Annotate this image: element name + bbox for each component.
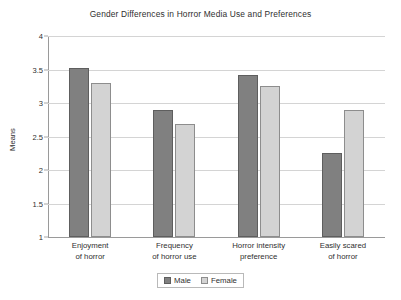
bar-group (301, 36, 385, 237)
legend-swatch-male (164, 277, 171, 284)
category-label-line: of horror use (132, 251, 216, 262)
legend-swatch-female (201, 277, 208, 284)
bar-male[interactable] (238, 75, 258, 237)
x-axis-category-label: Easily scaredof horror (301, 240, 385, 262)
legend-box: MaleFemale (157, 273, 244, 288)
bar-pair (48, 36, 132, 237)
bar-male[interactable] (322, 153, 342, 237)
bar-group (132, 36, 216, 237)
y-tick-label: 3.5 (32, 65, 43, 74)
bar-groups (48, 36, 385, 237)
legend: MaleFemale (0, 273, 401, 288)
category-label-line: Easily scared (301, 240, 385, 251)
category-label-line: Enjoyment (48, 240, 132, 251)
plot-area: 11.522.533.54 (48, 36, 385, 237)
y-tick-label: 1.5 (32, 199, 43, 208)
x-axis-category-labels: Enjoymentof horrorFrequencyof horror use… (48, 240, 385, 262)
bar-chart: Gender Differences in Horror Media Use a… (0, 0, 401, 300)
bar-female[interactable] (344, 110, 364, 237)
category-label-line: preference (217, 251, 301, 262)
bar-female[interactable] (91, 83, 111, 237)
category-label-line: of horror (301, 251, 385, 262)
bar-group (48, 36, 132, 237)
x-axis-category-label: Enjoymentof horror (48, 240, 132, 262)
category-label-line: of horror (48, 251, 132, 262)
bar-female[interactable] (260, 86, 280, 237)
y-tick-label: 1 (39, 233, 43, 242)
category-label-line: Frequency (132, 240, 216, 251)
category-label-line: Horror intensity (217, 240, 301, 251)
bar-pair (301, 36, 385, 237)
bar-pair (132, 36, 216, 237)
bar-male[interactable] (153, 110, 173, 237)
bar-group (217, 36, 301, 237)
y-axis-title: Means (4, 0, 20, 300)
bar-male[interactable] (69, 68, 89, 237)
gridline (48, 237, 385, 238)
chart-title: Gender Differences in Horror Media Use a… (0, 9, 401, 19)
y-tick-label: 4 (39, 32, 43, 41)
y-tick-label: 2 (39, 166, 43, 175)
legend-label: Female (211, 276, 237, 285)
legend-item-male[interactable]: Male (164, 276, 191, 285)
bar-female[interactable] (175, 124, 195, 237)
y-tick-label: 2.5 (32, 132, 43, 141)
y-tick-label: 3 (39, 99, 43, 108)
x-axis-category-label: Horror intensitypreference (217, 240, 301, 262)
bar-pair (217, 36, 301, 237)
y-axis-title-label: Means (8, 128, 17, 151)
legend-item-female[interactable]: Female (201, 276, 237, 285)
x-axis-category-label: Frequencyof horror use (132, 240, 216, 262)
legend-label: Male (174, 276, 191, 285)
